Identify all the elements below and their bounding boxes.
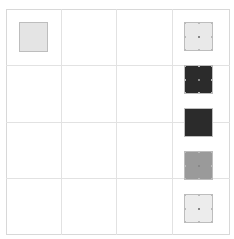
resize-handle[interactable] xyxy=(184,178,186,180)
resize-handle[interactable] xyxy=(198,22,200,24)
resize-handle[interactable] xyxy=(198,221,200,223)
resize-handle[interactable] xyxy=(211,194,213,196)
resize-handle[interactable] xyxy=(198,49,200,51)
resize-handle[interactable] xyxy=(211,221,213,223)
square-shape[interactable] xyxy=(184,151,213,180)
resize-handle[interactable] xyxy=(211,208,213,210)
resize-handle[interactable] xyxy=(198,194,200,196)
square-shape[interactable] xyxy=(184,65,213,94)
square-shape[interactable] xyxy=(184,108,213,137)
center-point xyxy=(198,79,200,81)
resize-handle[interactable] xyxy=(184,79,186,81)
center-point xyxy=(198,165,200,167)
resize-handle[interactable] xyxy=(184,36,186,38)
resize-handle[interactable] xyxy=(184,221,186,223)
square-shape[interactable] xyxy=(184,22,213,51)
resize-handle[interactable] xyxy=(198,65,200,67)
resize-handle[interactable] xyxy=(211,92,213,94)
center-point xyxy=(198,36,200,38)
resize-handle[interactable] xyxy=(184,92,186,94)
resize-handle[interactable] xyxy=(184,49,186,51)
resize-handle[interactable] xyxy=(184,151,186,153)
resize-handle[interactable] xyxy=(184,208,186,210)
square-shape[interactable] xyxy=(184,194,213,223)
resize-handle[interactable] xyxy=(198,92,200,94)
resize-handle[interactable] xyxy=(211,178,213,180)
resize-handle[interactable] xyxy=(211,49,213,51)
resize-handle[interactable] xyxy=(211,36,213,38)
resize-handle[interactable] xyxy=(211,22,213,24)
resize-handle[interactable] xyxy=(211,65,213,67)
resize-handle[interactable] xyxy=(211,79,213,81)
resize-handle[interactable] xyxy=(184,194,186,196)
resize-handle[interactable] xyxy=(198,151,200,153)
resize-handle[interactable] xyxy=(184,22,186,24)
resize-handle[interactable] xyxy=(211,165,213,167)
resize-handle[interactable] xyxy=(184,65,186,67)
resize-handle[interactable] xyxy=(184,165,186,167)
center-point xyxy=(198,208,200,210)
square-shape[interactable] xyxy=(19,22,48,52)
resize-handle[interactable] xyxy=(211,151,213,153)
resize-handle[interactable] xyxy=(198,178,200,180)
